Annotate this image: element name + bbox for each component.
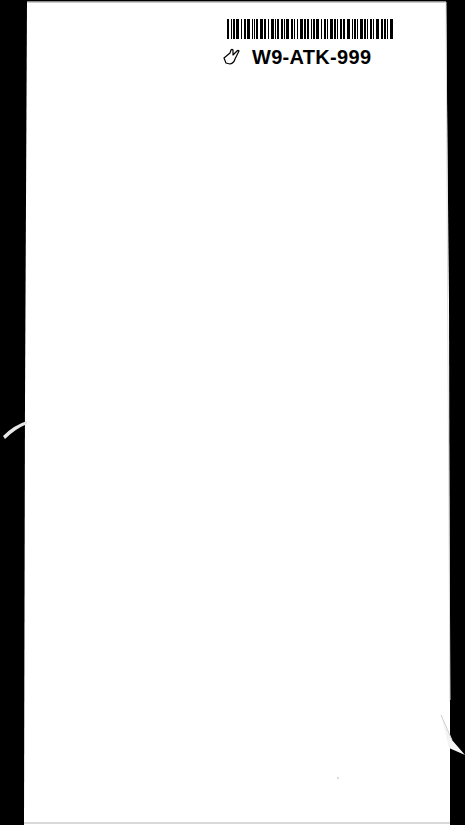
barcode-bar [337,19,338,39]
barcode-bar [360,19,363,39]
barcode-bar [244,19,246,39]
barcode-bar [370,19,372,39]
barcode-bar [387,19,388,39]
barcode-bar [316,19,319,39]
barcode-bar [343,19,345,39]
barcode-bar [231,19,232,39]
barcode-bar [281,19,283,39]
barcode [227,19,394,39]
barcode-bar [291,19,293,39]
barcode-bar [284,19,285,39]
barcode-bar [327,19,328,39]
barcode-bar [321,19,322,39]
barcode-bar [268,19,269,39]
barcode-bar [233,19,235,39]
barcode-bar [364,19,366,39]
barcode-bar [347,19,350,39]
barcode-bar [304,19,306,39]
barcode-bar [227,19,229,39]
catalog-row: W9-ATK-999 [222,45,371,69]
barcode-bar [334,19,336,39]
library-barcode-label: W9-ATK-999 [222,17,392,69]
barcode-bar [256,19,258,39]
barcode-bar [357,19,358,39]
barcode-bar [381,19,383,39]
barcode-bar [297,19,298,39]
barcode-bar [294,19,295,39]
barcode-bar [286,19,289,39]
barcode-bar [236,19,239,39]
barcode-bar [260,19,263,39]
barcode-bar [373,19,374,39]
barcode-bar [340,19,342,39]
barcode-bar [307,19,309,39]
barcode-bar [367,19,368,39]
catalog-number: W9-ATK-999 [252,45,371,69]
barcode-bar [384,19,386,39]
barcode-bar [313,19,315,39]
barcode-bar [330,19,333,39]
barcode-bar [324,19,326,39]
barcode-bar [354,19,356,39]
barcode-bar [264,19,266,39]
barcode-bar [390,19,393,39]
barcode-bar [311,19,312,39]
scanned-page-view: W9-ATK-999 [0,0,465,825]
barcode-bar [252,19,253,39]
barcode-bar [254,19,255,39]
barcode-bar [352,19,353,39]
barcode-bar [300,19,303,39]
barcode-bar [376,19,379,39]
page-curl-left [3,421,27,439]
barcode-bar [241,19,242,39]
barcode-bar [275,19,276,39]
hand-pointer-icon [222,47,242,67]
barcode-bar [271,19,274,39]
page-sheet [0,0,465,825]
barcode-bar [277,19,279,39]
barcode-bar [247,19,250,39]
